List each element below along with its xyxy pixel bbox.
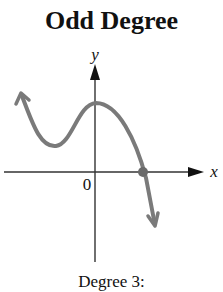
x-axis-label: x (209, 162, 218, 181)
degree-caption: Degree 3: (0, 272, 223, 292)
cubic-graph: y x 0 (0, 0, 223, 292)
cubic-curve (22, 96, 154, 220)
y-axis-arrow-icon (90, 64, 100, 80)
x-intercept-point (138, 167, 148, 177)
origin-label: 0 (83, 175, 92, 194)
y-axis-label: y (89, 45, 99, 64)
x-axis-arrow-icon (188, 167, 204, 177)
